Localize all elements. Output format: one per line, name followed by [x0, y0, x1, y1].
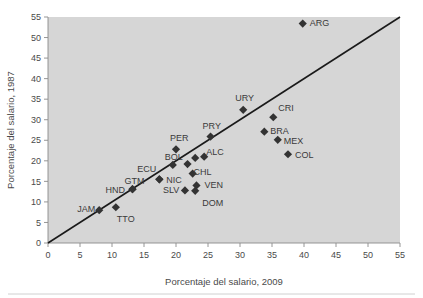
y-tick-label: 0: [36, 238, 41, 248]
point-label-mex: MEX: [284, 136, 304, 146]
x-tick-label: 20: [171, 250, 181, 260]
x-tick-label: 30: [235, 250, 245, 260]
y-tick-label: 30: [31, 115, 41, 125]
y-tick-label: 50: [31, 33, 41, 43]
y-tick-label: 45: [31, 53, 41, 63]
point-label-arg: ARG: [310, 18, 330, 28]
point-label-alc: ALC: [206, 147, 224, 157]
y-tick-label: 35: [31, 94, 41, 104]
x-tick-label: 5: [77, 250, 82, 260]
x-tick-label: 35: [267, 250, 277, 260]
point-label-cri: CRI: [278, 103, 294, 113]
point-label-bra: BRA: [270, 126, 289, 136]
x-tick-label: 15: [139, 250, 149, 260]
scatter-plot-figure: 0510152025303540455055 05101520253035404…: [0, 0, 423, 298]
y-tick-label: 5: [36, 218, 41, 228]
x-axis-ticks: 0510152025303540455055: [45, 243, 405, 260]
point-label-ven: VEN: [204, 180, 223, 190]
x-axis-title: Porcentaje del salario, 2009: [165, 276, 283, 287]
x-tick-label: 55: [395, 250, 405, 260]
point-label-per: PER: [170, 133, 189, 143]
point-label-jam: JAM: [77, 204, 95, 214]
x-tick-label: 0: [45, 250, 50, 260]
point-label-tto: TTO: [117, 214, 135, 224]
y-axis-ticks: 0510152025303540455055: [31, 12, 48, 248]
x-tick-label: 45: [331, 250, 341, 260]
point-label-slv: SLV: [163, 185, 179, 195]
x-tick-label: 40: [299, 250, 309, 260]
point-label-gtm: GTM: [124, 176, 144, 186]
y-tick-label: 40: [31, 74, 41, 84]
point-label-dom: DOM: [202, 198, 223, 208]
point-label-hnd: HND: [105, 185, 125, 195]
y-tick-label: 15: [31, 177, 41, 187]
chart-canvas: 0510152025303540455055 05101520253035404…: [0, 0, 423, 298]
y-tick-label: 10: [31, 197, 41, 207]
y-axis-title: Porcentaje del salario, 1987: [5, 71, 16, 189]
point-label-pry: PRY: [203, 121, 221, 131]
point-label-bol: BOL: [165, 152, 183, 162]
point-label-ury: URY: [235, 93, 254, 103]
x-tick-label: 25: [203, 250, 213, 260]
y-tick-label: 20: [31, 156, 41, 166]
x-tick-label: 10: [107, 250, 117, 260]
point-label-ecu: ECU: [137, 164, 156, 174]
y-tick-label: 55: [31, 12, 41, 22]
y-tick-label: 25: [31, 135, 41, 145]
point-label-col: COL: [295, 150, 314, 160]
x-tick-label: 50: [363, 250, 373, 260]
point-label-nic: NIC: [166, 175, 182, 185]
point-label-chl: CHL: [194, 167, 212, 177]
